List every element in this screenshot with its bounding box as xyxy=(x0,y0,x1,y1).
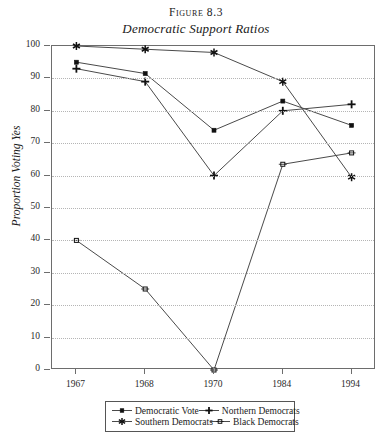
gridline xyxy=(52,176,374,177)
y-tick-mark xyxy=(44,45,50,46)
y-tick-mark xyxy=(44,175,50,176)
gridline xyxy=(52,338,374,339)
gridline xyxy=(52,273,374,274)
y-tick-label: 70 xyxy=(31,137,41,147)
gridline xyxy=(52,78,374,79)
y-tick-label: 50 xyxy=(31,202,41,212)
series-northern-democrats xyxy=(72,65,355,180)
x-tick-mark xyxy=(213,369,214,374)
x-tick-mark xyxy=(282,369,283,374)
open-square-marker xyxy=(279,162,287,166)
y-tick-mark xyxy=(44,142,50,143)
series-black-democrats xyxy=(72,151,355,372)
filled-square-marker xyxy=(350,123,354,127)
y-tick-label: 90 xyxy=(31,73,41,83)
filled-square-marker xyxy=(143,72,147,76)
legend-label: Northern Democrats xyxy=(222,406,300,416)
x-axis-labels: 19671968197019841994 xyxy=(51,369,375,399)
filled-square-marker xyxy=(74,60,78,64)
y-tick-label: 60 xyxy=(31,170,41,180)
y-tick-mark xyxy=(44,239,50,240)
y-tick-mark xyxy=(44,304,50,305)
gridline xyxy=(52,208,374,209)
plus-marker xyxy=(348,100,356,108)
chart-legend: Democratic Vote Northern Democrats South… xyxy=(105,401,295,432)
x-tick-label: 1970 xyxy=(204,379,223,389)
legend-label: Democratic Vote xyxy=(135,406,199,416)
gridline xyxy=(52,143,374,144)
y-tick-label: 100 xyxy=(26,40,40,50)
y-tick-mark xyxy=(44,77,50,78)
y-tick-label: 40 xyxy=(31,235,41,245)
legend-label: Southern Democrats xyxy=(135,417,213,427)
plot-area xyxy=(51,45,375,369)
x-tick-mark xyxy=(75,369,76,374)
y-tick-mark xyxy=(44,337,50,338)
y-tick-mark xyxy=(44,272,50,273)
y-axis-labels: 0102030405060708090100 xyxy=(0,45,47,369)
legend-item-northern-democrats[interactable]: Northern Democrats xyxy=(199,405,300,416)
plus-icon xyxy=(199,405,219,416)
gridline xyxy=(52,305,374,306)
y-tick-mark xyxy=(44,369,50,370)
y-tick-label: 0 xyxy=(35,364,40,374)
plus-marker xyxy=(205,407,212,414)
figure-title-block: Figure 8.3 Democratic Support Ratios xyxy=(0,6,392,37)
y-tick-mark xyxy=(44,110,50,111)
filled-square-marker xyxy=(281,99,285,103)
x-tick-label: 1968 xyxy=(135,379,154,389)
x-tick-mark xyxy=(351,369,352,374)
plus-marker xyxy=(72,65,80,73)
x-tick-label: 1984 xyxy=(272,379,291,389)
y-axis-title: Proportion Voting Yes xyxy=(10,76,22,276)
legend-item-democratic-vote[interactable]: Democratic Vote xyxy=(112,405,199,416)
legend-label: Black Democrats xyxy=(233,417,299,427)
filled-square-marker xyxy=(212,128,216,132)
legend-item-southern-democrats[interactable]: Southern Democrats xyxy=(112,416,210,427)
asterisk-icon xyxy=(112,416,132,427)
y-tick-mark xyxy=(44,207,50,208)
open-square-marker xyxy=(348,151,356,155)
y-tick-label: 10 xyxy=(31,332,41,342)
page-title: Democratic Support Ratios xyxy=(0,21,392,37)
gridline xyxy=(52,111,374,112)
open-square-marker xyxy=(216,420,223,424)
figure-number: Figure 8.3 xyxy=(0,6,392,18)
y-tick-label: 20 xyxy=(31,299,41,309)
legend-row: Democratic Vote Northern Democrats xyxy=(112,405,288,416)
figure-container: Figure 8.3 Democratic Support Ratios 010… xyxy=(0,0,392,443)
filled-square-icon xyxy=(112,405,132,416)
open-square-icon xyxy=(210,416,230,427)
y-tick-label: 30 xyxy=(31,267,41,277)
legend-row: Southern Democrats Black Democrats xyxy=(112,416,288,427)
filled-square-marker xyxy=(120,409,124,413)
y-tick-label: 80 xyxy=(31,105,41,115)
x-tick-label: 1967 xyxy=(66,379,85,389)
gridline xyxy=(52,240,374,241)
x-tick-label: 1994 xyxy=(341,379,360,389)
legend-item-black-democrats[interactable]: Black Democrats xyxy=(210,416,299,427)
x-tick-mark xyxy=(144,369,145,374)
